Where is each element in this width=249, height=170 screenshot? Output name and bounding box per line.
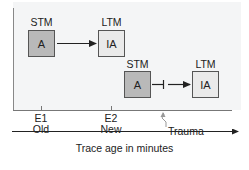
tick-e1-sublabel: Old — [29, 124, 53, 135]
row1-ltm-box: IA — [98, 30, 125, 57]
row2-stm-header: STM — [124, 59, 151, 70]
trauma-arrowhead-icon — [161, 112, 166, 117]
row2-ltm-header: LTM — [192, 59, 219, 70]
x-axis-label: Trace age in minutes — [0, 143, 249, 154]
row1-stm-header: STM — [28, 17, 55, 28]
tick-e1-label: E1 — [29, 113, 53, 124]
tick-e2-label: E2 — [97, 113, 125, 124]
row1-ltm-header: LTM — [98, 17, 125, 28]
trauma-label: Trauma — [168, 126, 204, 137]
tick-e2-sublabel: New — [97, 124, 125, 135]
row2-ltm-box: IA — [192, 71, 219, 98]
row2-stm-box: A — [124, 71, 151, 98]
row1-stm-box: A — [28, 30, 55, 57]
